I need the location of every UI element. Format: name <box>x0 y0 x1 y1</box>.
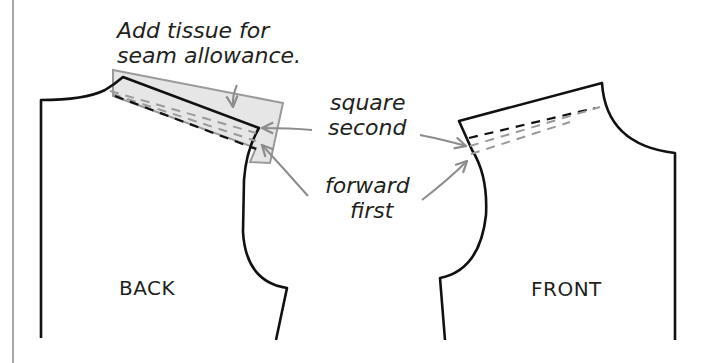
square-label-line1: square <box>330 90 405 115</box>
front-piece-label: FRONT <box>531 277 602 301</box>
tissue-label-line1: Add tissue for <box>115 18 271 43</box>
front-bodice <box>440 83 675 340</box>
forward-label-line2: first <box>350 198 395 223</box>
square-label-line2: second <box>328 115 407 140</box>
forward-label-line1: forward <box>325 173 411 198</box>
back-piece-label: BACK <box>119 276 176 300</box>
square-front-arrow <box>420 135 466 146</box>
tissue-label-line2: seam allowance. <box>117 43 301 68</box>
forward-front-arrow <box>422 161 467 200</box>
forward-back-arrow <box>262 145 308 196</box>
pattern-diagram: Add tissue for seam allowance. square se… <box>0 0 704 363</box>
